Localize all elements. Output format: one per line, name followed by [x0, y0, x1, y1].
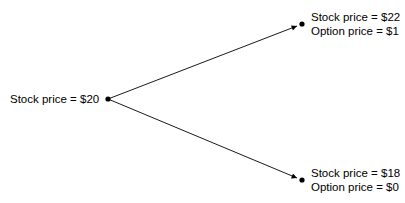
down-option-price: Option price = $0 [311, 180, 400, 194]
up-node-label: Stock price = $22 Option price = $1 [311, 10, 400, 38]
root-stock-price: Stock price = $20 [10, 92, 99, 106]
root-node [105, 96, 110, 101]
up-node [299, 21, 304, 26]
root-node-label: Stock price = $20 [10, 92, 99, 106]
up-stock-price: Stock price = $22 [311, 10, 400, 24]
up-branch-arrow [108, 26, 297, 99]
down-branch-arrow [108, 99, 297, 178]
down-node [299, 177, 304, 182]
down-node-label: Stock price = $18 Option price = $0 [311, 166, 400, 194]
up-option-price: Option price = $1 [311, 24, 400, 38]
down-stock-price: Stock price = $18 [311, 166, 400, 180]
